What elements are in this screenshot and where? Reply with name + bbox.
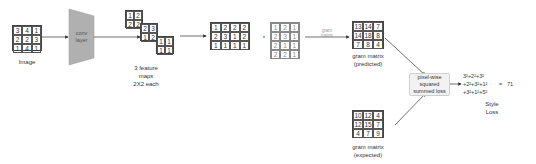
label-line: gram matrix <box>344 143 392 151</box>
conv-layer-label: conv layer <box>69 30 94 44</box>
matrix-cell: 1 <box>280 41 289 50</box>
matrix-cell: 3 <box>149 24 157 33</box>
matrix-cell: 2 <box>280 50 289 59</box>
feature-map-3: 1 1 1 1 <box>156 36 174 54</box>
matrix-cell: 4 <box>353 129 363 138</box>
matrix-cell: 4 <box>373 111 383 120</box>
matrix-cell: 2 <box>141 24 149 33</box>
matrix-cell: 3 <box>32 35 41 44</box>
matrix-cell: 3 <box>221 32 231 41</box>
matrix-cell: 2 <box>271 32 280 41</box>
loss-formula: 3²+2²+3² +2²+3²+1² +3²+1²+5² <box>463 72 487 96</box>
matrix-cell: 2 <box>211 32 221 41</box>
matrix-cell: 1 <box>32 26 41 35</box>
conv-label-line: layer <box>69 37 94 44</box>
matrix-cell: 7 <box>353 40 363 49</box>
label-line: (expected) <box>344 151 392 159</box>
gram-expected-label: gram matrix (expected) <box>344 143 392 159</box>
matrix-cell: 1 <box>165 46 173 55</box>
matrix-cell: 2 <box>240 32 250 41</box>
feature-maps-label: 3 feature maps 2X2 each <box>124 64 168 88</box>
image-label: Image <box>12 58 42 66</box>
conv-label-line: conv <box>69 30 94 37</box>
matrix-cell: 7 <box>373 22 383 31</box>
matrix-cell: 13 <box>353 22 363 31</box>
formula-equals: = <box>499 80 502 88</box>
matrix-cell: 7 <box>373 120 383 129</box>
matrix-cell: 2 <box>230 23 240 32</box>
label-line: Style <box>480 100 504 108</box>
matrix-cell: 7 <box>363 129 373 138</box>
label-line: 2X2 each <box>124 80 168 88</box>
matrix-cell: 3 <box>13 26 22 35</box>
matrix-cell: 2 <box>221 23 231 32</box>
matrix-cell: 1 <box>290 50 299 59</box>
matrix-cell: 9 <box>373 129 383 138</box>
label-line: squared <box>410 81 449 88</box>
label-line: Loss <box>480 108 504 116</box>
matrix-cell: 2 <box>126 20 134 29</box>
matrix-cell: 1 <box>141 33 149 42</box>
label-line: matrix <box>313 33 341 38</box>
matrix-cell: 1 <box>271 23 280 32</box>
matrix-cell: 2 <box>271 50 280 59</box>
label-line: pixel-wise <box>410 74 449 81</box>
matrix-cell: 3 <box>280 32 289 41</box>
matrix-cell: 2 <box>240 23 250 32</box>
style-loss-label: Style Loss <box>480 100 504 116</box>
matrix-cell: 1 <box>211 41 221 50</box>
matrix-cell: 12 <box>363 111 373 120</box>
label-line: 3 feature <box>124 64 168 72</box>
input-image-matrix: 3 4 1 2 2 3 1 4 1 <box>12 25 42 51</box>
matrix-cell: 2 <box>271 41 280 50</box>
matrix-cell: 4 <box>373 40 383 49</box>
gram-predicted-label: gram matrix (predicted) <box>344 52 392 68</box>
matrix-cell: 14 <box>353 31 363 40</box>
connector-layer <box>0 0 536 164</box>
matrix-cell: 1 <box>211 23 221 32</box>
matrix-cell: 15 <box>363 120 373 129</box>
pixelwise-loss-box: pixel-wise squared summed loss <box>409 73 450 96</box>
label-line: (predicted) <box>344 60 392 68</box>
matrix-cell: 1 <box>32 44 41 53</box>
style-loss-value: 71 <box>507 80 513 88</box>
matrix-cell: 1 <box>230 41 240 50</box>
matrix-cell: 1 <box>221 41 231 50</box>
multiply-symbol: * <box>260 34 268 42</box>
matrix-cell: 1 <box>157 37 165 46</box>
label-line: summed loss <box>410 88 449 95</box>
matrix-cell: 8 <box>373 31 383 40</box>
gram-matrix-expected: 10 12 4 12 15 7 4 7 9 <box>352 110 384 138</box>
matrix-cell: 1 <box>126 11 134 20</box>
matrix-cell: 10 <box>353 111 363 120</box>
matrix-cell: 2 <box>134 11 142 20</box>
formula-line: +2²+3²+1² <box>463 80 487 88</box>
gram-arrow-label: gram matrix <box>313 28 341 38</box>
transposed-feature-matrix: 1 2 1 2 3 1 2 1 1 2 2 1 <box>270 22 300 59</box>
matrix-cell: 14 <box>363 22 373 31</box>
label-line: maps <box>124 72 168 80</box>
flattened-feature-matrix: 1 2 2 2 2 3 1 2 1 1 1 1 <box>210 22 250 50</box>
matrix-cell: 1 <box>290 32 299 41</box>
formula-line: 3²+2²+3² <box>463 72 487 80</box>
matrix-cell: 1 <box>157 46 165 55</box>
matrix-cell: 2 <box>22 35 31 44</box>
matrix-cell: 1 <box>230 32 240 41</box>
matrix-cell: 8 <box>363 40 373 49</box>
matrix-cell: 1 <box>290 41 299 50</box>
matrix-cell: 4 <box>22 26 31 35</box>
matrix-cell: 1 <box>165 37 173 46</box>
matrix-cell: 2 <box>13 35 22 44</box>
matrix-cell: 2 <box>280 23 289 32</box>
matrix-cell: 12 <box>353 120 363 129</box>
matrix-cell: 1 <box>290 23 299 32</box>
matrix-cell: 18 <box>363 31 373 40</box>
matrix-cell: 4 <box>22 44 31 53</box>
label-line: gram matrix <box>344 52 392 60</box>
matrix-cell: 1 <box>240 41 250 50</box>
formula-line: +3²+1²+5² <box>463 88 487 96</box>
matrix-cell: 1 <box>13 44 22 53</box>
gram-matrix-predicted: 13 14 7 14 18 8 7 8 4 <box>352 21 384 49</box>
